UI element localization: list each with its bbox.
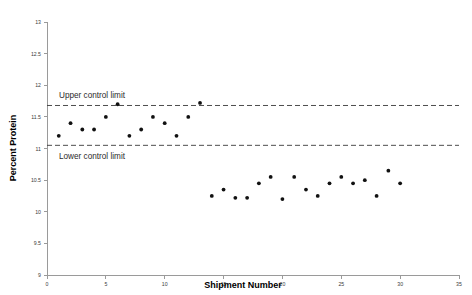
chart-text-labels: Upper control limitLower control limit	[59, 91, 126, 161]
control-chart: 99.51010.51111.51212.513 05101520253035 …	[0, 0, 472, 295]
x-axis-title: Shipment Number	[204, 280, 282, 290]
data-point	[210, 194, 214, 198]
y-tick-label: 10	[35, 209, 41, 215]
lower-control-limit-label: Lower control limit	[59, 152, 126, 161]
control-limit-lines	[47, 105, 459, 145]
y-axis: 99.51010.51111.51212.513	[31, 19, 47, 278]
y-tick-label: 9	[38, 272, 41, 278]
data-point	[163, 121, 167, 125]
data-point	[304, 188, 308, 192]
data-point	[375, 194, 379, 198]
data-point	[104, 115, 108, 119]
data-point	[281, 197, 285, 201]
x-tick-label: 35	[456, 281, 462, 287]
data-point	[69, 121, 73, 125]
data-point	[316, 194, 320, 198]
y-axis-title: Percent Protein	[8, 115, 18, 182]
data-point	[57, 134, 61, 138]
data-point	[233, 196, 237, 200]
data-point	[116, 102, 120, 106]
data-point	[328, 181, 332, 185]
chart-canvas: 99.51010.51111.51212.513 05101520253035 …	[0, 0, 472, 295]
y-tick-label: 10.5	[31, 177, 41, 183]
x-tick-label: 5	[104, 281, 107, 287]
upper-control-limit-label: Upper control limit	[59, 91, 126, 100]
y-tick-label: 12.5	[31, 51, 41, 57]
data-point	[175, 134, 179, 138]
x-tick-label: 30	[397, 281, 403, 287]
y-tick-label: 13	[35, 19, 41, 25]
data-point	[269, 175, 273, 179]
data-points	[57, 101, 402, 201]
data-point	[127, 134, 131, 138]
data-point	[339, 175, 343, 179]
y-tick-label: 9.5	[34, 240, 41, 246]
y-tick-label: 11.5	[31, 114, 41, 120]
data-point	[222, 188, 226, 192]
data-point	[92, 128, 96, 132]
data-point	[245, 196, 249, 200]
data-point	[186, 115, 190, 119]
x-tick-label: 25	[338, 281, 344, 287]
data-point	[257, 181, 261, 185]
data-point	[351, 181, 355, 185]
data-point	[363, 178, 367, 182]
data-point	[80, 128, 84, 132]
data-point	[198, 101, 202, 105]
data-point	[139, 128, 143, 132]
data-point	[398, 181, 402, 185]
x-tick-label: 0	[46, 281, 49, 287]
data-point	[386, 169, 390, 173]
data-point	[151, 115, 155, 119]
data-point	[292, 175, 296, 179]
y-tick-label: 12	[35, 82, 41, 88]
y-tick-label: 11	[36, 146, 41, 152]
x-tick-label: 10	[162, 281, 168, 287]
